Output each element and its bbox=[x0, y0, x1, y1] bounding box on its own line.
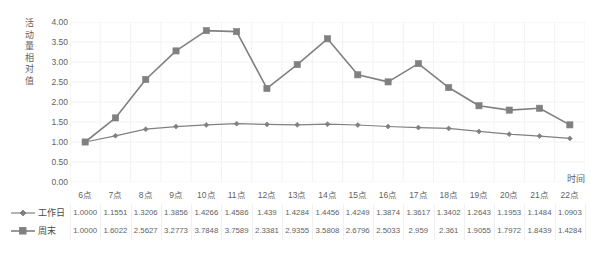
y-axis-tick: 4.00 bbox=[51, 18, 68, 27]
y-axis-tick: 0.00 bbox=[51, 178, 68, 187]
table-cell-value: 1.1551 bbox=[104, 204, 128, 222]
x-axis-tick: 13点 bbox=[288, 189, 306, 201]
table-cell-value: 2.3381 bbox=[255, 222, 279, 240]
table-cell-value: 2.959 bbox=[409, 222, 429, 240]
table-cell-value: 1.0903 bbox=[558, 204, 582, 222]
table-cell-value: 1.4284 bbox=[558, 222, 582, 240]
table-cell-value: 1.2643 bbox=[467, 204, 491, 222]
x-axis-tick: 9点 bbox=[169, 189, 183, 201]
x-axis-tick: 14点 bbox=[318, 189, 336, 201]
x-axis-title: 时间 bbox=[567, 174, 585, 185]
data-point-square bbox=[82, 139, 88, 145]
data-point-square bbox=[415, 61, 421, 67]
legend-label: 周末 bbox=[38, 225, 56, 237]
table-row: 工作日1.00001.15511.32061.38561.42661.45861… bbox=[0, 204, 591, 222]
table-cell-value: 1.9055 bbox=[467, 222, 491, 240]
table-cell-value: 1.6022 bbox=[104, 222, 128, 240]
x-axis-tick: 12点 bbox=[258, 189, 276, 201]
x-axis-tick: 22点 bbox=[561, 189, 579, 201]
table-cell-value: 2.5033 bbox=[376, 222, 400, 240]
y-axis-tick: 2.50 bbox=[51, 78, 68, 87]
series-weekday bbox=[83, 121, 573, 144]
data-point-diamond bbox=[476, 129, 481, 134]
x-axis-tick: 21点 bbox=[530, 189, 548, 201]
x-axis-tick: 20点 bbox=[500, 189, 518, 201]
data-point-square bbox=[294, 61, 300, 67]
plot-area bbox=[70, 22, 585, 182]
table-cell-value: 1.4249 bbox=[346, 204, 370, 222]
table-cell-value: 1.3206 bbox=[134, 204, 158, 222]
legend-key-square-icon bbox=[10, 225, 36, 237]
data-point-diamond bbox=[174, 124, 179, 129]
table-cell-value: 3.7848 bbox=[194, 222, 218, 240]
table-cell-value: 3.7589 bbox=[225, 222, 249, 240]
data-point-square bbox=[112, 115, 118, 121]
x-axis-tick: 7点 bbox=[109, 189, 123, 201]
y-axis-title: 活动量相对值 bbox=[22, 18, 36, 87]
x-axis-tick: 6点 bbox=[78, 189, 92, 201]
table-cell-value: 1.1484 bbox=[528, 204, 552, 222]
legend-key-diamond-icon bbox=[10, 207, 36, 219]
table-cell-value: 1.0000 bbox=[73, 222, 97, 240]
x-axis-tick: 17点 bbox=[409, 189, 427, 201]
data-point-diamond bbox=[507, 132, 512, 137]
table-cell-value: 1.3402 bbox=[437, 204, 461, 222]
legend-item[interactable]: 工作日 bbox=[10, 204, 70, 222]
data-point-diamond bbox=[264, 122, 269, 127]
table-cell-value: 1.8439 bbox=[528, 222, 552, 240]
table-cell-value: 2.361 bbox=[439, 222, 459, 240]
table-cell-value: 1.439 bbox=[257, 204, 277, 222]
data-point-diamond bbox=[567, 136, 572, 141]
data-point-square bbox=[446, 84, 452, 90]
table-cell-value: 1.7972 bbox=[497, 222, 521, 240]
chart-canvas bbox=[70, 22, 585, 182]
table-cell-value: 1.3874 bbox=[376, 204, 400, 222]
table-cell-value: 1.4266 bbox=[194, 204, 218, 222]
x-axis-tick: 8点 bbox=[139, 189, 153, 201]
data-point-diamond bbox=[386, 124, 391, 129]
data-point-diamond bbox=[295, 122, 300, 127]
table-cell-value: 1.4284 bbox=[285, 204, 309, 222]
data-point-square bbox=[203, 28, 209, 34]
table-cell-value: 1.3617 bbox=[406, 204, 430, 222]
y-axis-tick: 0.50 bbox=[51, 158, 68, 167]
x-axis-tick: 11点 bbox=[228, 189, 246, 201]
series-weekend bbox=[82, 28, 573, 146]
table-cell-value: 1.1953 bbox=[497, 204, 521, 222]
x-axis-tick: 10点 bbox=[197, 189, 215, 201]
legend-label: 工作日 bbox=[38, 207, 65, 219]
data-point-square bbox=[355, 72, 361, 78]
chart-root: 活动量相对值 0.000.501.001.502.002.503.003.504… bbox=[0, 0, 591, 256]
data-point-diamond bbox=[446, 126, 451, 131]
y-axis-tick: 1.00 bbox=[51, 138, 68, 147]
data-point-square bbox=[536, 105, 542, 111]
data-point-square bbox=[476, 103, 482, 109]
chart-data-table: 工作日1.00001.15511.32061.38561.42661.45861… bbox=[0, 204, 591, 240]
x-axis-tick: 16点 bbox=[379, 189, 397, 201]
table-cell-value: 1.3856 bbox=[164, 204, 188, 222]
data-point-square bbox=[506, 107, 512, 113]
data-point-diamond bbox=[143, 127, 148, 132]
y-axis-tick: 2.00 bbox=[51, 98, 68, 107]
table-cell-value: 1.4456 bbox=[316, 204, 340, 222]
table-cell-value: 1.0000 bbox=[73, 204, 97, 222]
data-point-square bbox=[143, 76, 149, 82]
data-point-square bbox=[234, 29, 240, 35]
table-cell-value: 2.6796 bbox=[346, 222, 370, 240]
data-point-square bbox=[385, 79, 391, 85]
table-cell-value: 3.5808 bbox=[316, 222, 340, 240]
legend-item[interactable]: 周末 bbox=[10, 222, 70, 240]
data-point-square bbox=[324, 36, 330, 42]
data-point-diamond bbox=[204, 122, 209, 127]
gridlines bbox=[70, 22, 585, 182]
y-axis-tick-labels: 0.000.501.001.502.002.503.003.504.00 bbox=[38, 0, 68, 190]
data-point-square bbox=[173, 48, 179, 54]
table-cell-value: 1.4586 bbox=[225, 204, 249, 222]
table-cell-value: 2.5627 bbox=[134, 222, 158, 240]
table-cell-value: 3.2773 bbox=[164, 222, 188, 240]
data-point-diamond bbox=[355, 123, 360, 128]
y-axis-tick: 3.50 bbox=[51, 38, 68, 47]
table-row: 周末1.00001.60222.56273.27733.78483.75892.… bbox=[0, 222, 591, 240]
table-cell-value: 2.9355 bbox=[285, 222, 309, 240]
data-point-diamond bbox=[537, 134, 542, 139]
